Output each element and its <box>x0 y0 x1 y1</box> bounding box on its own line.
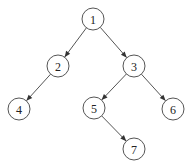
tree-node-3: 3 <box>123 55 145 77</box>
node-label: 1 <box>90 13 96 27</box>
node-label: 3 <box>131 60 137 74</box>
tree-node-7: 7 <box>123 138 145 160</box>
edge-1-2 <box>65 28 87 57</box>
edges-layer <box>26 27 165 141</box>
node-label: 6 <box>170 103 176 117</box>
nodes-layer: 1234567 <box>8 8 184 160</box>
edge-3-5 <box>102 74 127 100</box>
tree-node-2: 2 <box>47 55 69 77</box>
tree-diagram: 1234567 <box>0 0 191 168</box>
tree-node-6: 6 <box>162 98 184 120</box>
edge-3-6 <box>141 74 165 101</box>
node-label: 7 <box>131 143 137 157</box>
edge-line <box>100 27 127 57</box>
tree-node-5: 5 <box>83 97 105 119</box>
node-label: 2 <box>55 60 61 74</box>
edge-2-4 <box>26 74 50 101</box>
edge-5-7 <box>102 116 127 141</box>
node-label: 4 <box>16 103 22 117</box>
tree-node-4: 4 <box>8 98 30 120</box>
tree-node-1: 1 <box>82 8 104 30</box>
node-label: 5 <box>91 102 97 116</box>
edge-1-3 <box>100 27 127 57</box>
arrowhead-icon <box>65 51 71 57</box>
